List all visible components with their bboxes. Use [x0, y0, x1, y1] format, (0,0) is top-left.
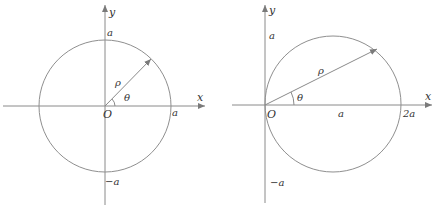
origin-label: O	[267, 108, 276, 121]
polar-circles-diagram: y x a a O ρ θ −a y x a a 2a O ρ θ −a	[0, 0, 433, 219]
origin-label: O	[103, 108, 112, 121]
rho-vector	[265, 49, 377, 105]
y-tick-top-label: a	[107, 27, 113, 38]
y-tick-bottom-label: −a	[270, 177, 284, 188]
y-tick-top-label: a	[269, 30, 275, 41]
rho-label: ρ	[114, 77, 121, 88]
y-axis-label: y	[108, 6, 116, 19]
y-axis-label: y	[268, 4, 276, 17]
theta-arc	[291, 92, 294, 105]
x-axis-label: x	[425, 90, 432, 103]
theta-label: θ	[297, 92, 303, 103]
figure-left: y x a a O ρ θ −a	[3, 5, 205, 205]
x-tick-end-label: 2a	[402, 108, 415, 119]
theta-arc	[112, 99, 115, 106]
y-tick-bottom-label: −a	[105, 176, 119, 187]
x-tick-label: a	[172, 107, 178, 118]
figure-right: y x a a 2a O ρ θ −a	[232, 4, 432, 203]
rho-label: ρ	[317, 65, 324, 76]
x-tick-mid-label: a	[338, 108, 344, 119]
x-axis-label: x	[197, 91, 204, 104]
circle	[265, 36, 401, 172]
theta-label: θ	[124, 92, 130, 103]
